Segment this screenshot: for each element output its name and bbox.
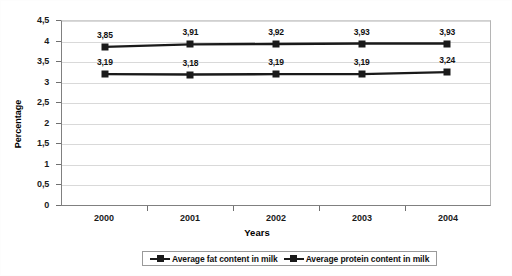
legend-label-fat: Average fat content in milk xyxy=(172,254,278,264)
data-point-marker xyxy=(358,40,365,47)
data-point-marker xyxy=(273,40,280,47)
data-point-marker xyxy=(273,71,280,78)
y-tick-mark xyxy=(56,184,61,185)
y-tick-label: 1,5 xyxy=(37,138,49,148)
y-tick-label: 0,5 xyxy=(37,179,49,189)
gridline-0-5 xyxy=(62,185,490,186)
y-tick-mark xyxy=(56,164,61,165)
y-tick-mark xyxy=(56,20,61,21)
y-tick-mark xyxy=(56,123,61,124)
legend-item-protein[interactable]: Average protein content in milk xyxy=(284,254,430,264)
legend-label-protein: Average protein content in milk xyxy=(306,254,430,264)
gridline-2-5 xyxy=(62,103,490,104)
y-tick-mark xyxy=(56,61,61,62)
y-tick-label: 2,5 xyxy=(37,97,49,107)
y-tick-label: 3 xyxy=(44,77,49,87)
data-point-marker xyxy=(187,71,194,78)
data-point-label: 3,93 xyxy=(439,27,455,37)
data-point-marker xyxy=(358,71,365,78)
y-tick-label: 1 xyxy=(44,159,49,169)
y-tick-label: 0 xyxy=(44,200,49,210)
data-point-label: 3,19 xyxy=(268,57,284,67)
y-tick-mark xyxy=(56,41,61,42)
line-marker-icon xyxy=(150,254,170,263)
y-tick-label: 4 xyxy=(44,36,49,46)
x-tick-mark xyxy=(233,206,234,211)
x-tick-label-2004: 2004 xyxy=(418,213,478,223)
y-tick-mark xyxy=(56,82,61,83)
x-tick-mark xyxy=(147,206,148,211)
x-tick-label-2000: 2000 xyxy=(74,213,134,223)
gridline-2 xyxy=(62,124,490,125)
data-point-marker xyxy=(101,71,108,78)
gridline-4-5 xyxy=(62,21,490,22)
data-point-marker xyxy=(187,41,194,48)
gridline-1-5 xyxy=(62,144,490,145)
data-point-label: 3,19 xyxy=(354,57,370,67)
y-tick-label: 2 xyxy=(44,118,49,128)
data-point-marker xyxy=(444,40,451,47)
chart-container: 4,5 4 3,5 3 2,5 2 1,5 1 0,5 0 Percentage… xyxy=(0,0,512,276)
x-tick-label-2001: 2001 xyxy=(160,213,220,223)
data-point-label: 3,19 xyxy=(97,57,113,67)
data-point-label: 3,93 xyxy=(354,27,370,37)
x-tick-mark xyxy=(405,206,406,211)
y-axis-title: Percentage xyxy=(13,84,23,164)
x-tick-mark xyxy=(319,206,320,211)
data-point-label: 3,85 xyxy=(97,30,113,40)
gridline-3 xyxy=(62,83,490,84)
y-tick-label: 4,5 xyxy=(37,15,49,25)
data-point-label: 3,92 xyxy=(268,27,284,37)
gridline-1 xyxy=(62,165,490,166)
data-point-marker xyxy=(444,69,451,76)
legend: Average fat content in milk Average prot… xyxy=(142,251,437,266)
data-point-label: 3,18 xyxy=(183,58,199,68)
y-tick-mark xyxy=(56,143,61,144)
data-point-label: 3,24 xyxy=(439,55,455,65)
data-point-marker xyxy=(101,43,108,50)
data-point-label: 3,91 xyxy=(183,27,199,37)
y-tick-mark xyxy=(56,102,61,103)
y-tick-label: 3,5 xyxy=(37,56,49,66)
legend-item-fat[interactable]: Average fat content in milk xyxy=(150,254,278,264)
x-tick-label-2003: 2003 xyxy=(332,213,392,223)
y-tick-mark xyxy=(56,205,61,206)
x-tick-label-2002: 2002 xyxy=(246,213,306,223)
line-marker-icon xyxy=(284,254,304,263)
x-axis-title: Years xyxy=(1,227,512,238)
plot-area xyxy=(61,20,491,206)
